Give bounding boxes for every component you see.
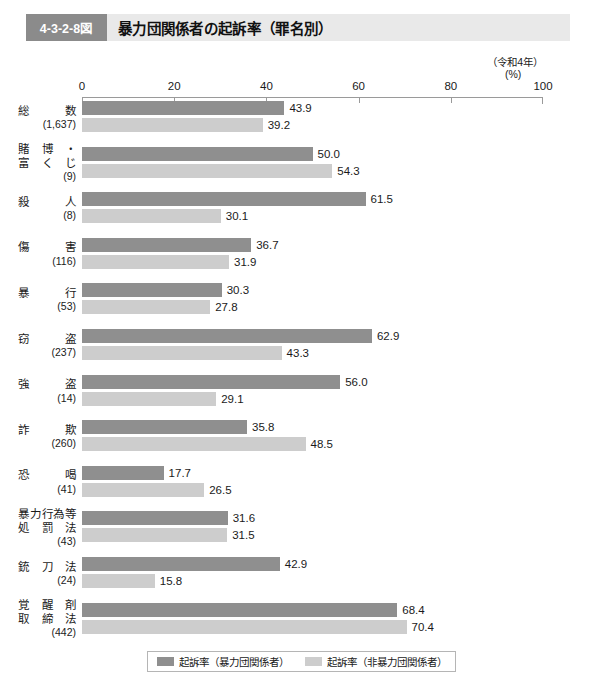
unit-annotation: (%) — [505, 68, 521, 80]
bar-value-label: 30.1 — [226, 209, 248, 223]
bar-value-label: 29.1 — [221, 392, 243, 406]
chart-bar — [82, 192, 366, 206]
chart-bar — [82, 300, 210, 314]
legend-label: 起訴率（非暴力団関係者） — [327, 654, 447, 669]
x-tick-label: 20 — [168, 80, 181, 92]
category-label: 覚 醒 剤取 締 法(442) — [18, 599, 76, 640]
category-count: (8) — [18, 209, 76, 223]
bar-value-label: 43.9 — [289, 101, 311, 115]
category-name: 強 盗 — [18, 378, 76, 392]
category-count: (116) — [18, 255, 76, 269]
x-tick-label: 40 — [260, 80, 273, 92]
category-name: 暴力行為等 — [18, 508, 76, 522]
category-name: 富 く じ — [18, 157, 76, 171]
category-name: 恐 喝 — [18, 469, 76, 483]
legend-item: 起訴率（暴力団関係者） — [157, 654, 289, 669]
bar-value-label: 35.8 — [252, 420, 274, 434]
x-tick-mark — [359, 97, 360, 103]
category-count: (43) — [18, 535, 76, 549]
chart-bar — [82, 483, 204, 497]
category-count: (24) — [18, 574, 76, 588]
page-title: 暴力団関係者の起訴率（罪名別） — [118, 14, 333, 41]
category-name: 総 数 — [18, 105, 76, 119]
category-label: 賭 博 ・富 く じ(9) — [18, 143, 76, 184]
x-tick-label: 60 — [352, 80, 365, 92]
chart-bar — [82, 283, 222, 297]
category-label: 総 数(1,637) — [18, 105, 76, 132]
bar-value-label: 70.4 — [412, 620, 434, 634]
chart-bar — [82, 346, 282, 360]
category-name: 覚 醒 剤 — [18, 599, 76, 613]
category-count: (260) — [18, 437, 76, 451]
chart-bar — [82, 375, 340, 389]
category-label: 窃 盗(237) — [18, 333, 76, 360]
chart-bar — [82, 392, 216, 406]
chart-bar — [82, 209, 221, 223]
bar-value-label: 27.8 — [215, 300, 237, 314]
category-label: 暴 行(53) — [18, 287, 76, 314]
category-name: 暴 行 — [18, 287, 76, 301]
x-tick-label: 100 — [533, 80, 552, 92]
category-count: (53) — [18, 300, 76, 314]
bar-value-label: 36.7 — [256, 238, 278, 252]
chart-bar — [82, 118, 263, 132]
category-count: (41) — [18, 483, 76, 497]
year-annotation: （令和4年） — [487, 54, 543, 69]
category-name: 賭 博 ・ — [18, 143, 76, 157]
x-tick-mark — [451, 97, 452, 103]
category-name: 殺 人 — [18, 196, 76, 210]
category-count: (237) — [18, 346, 76, 360]
legend-swatch — [305, 657, 322, 666]
legend-item: 起訴率（非暴力団関係者） — [305, 654, 447, 669]
bar-value-label: 31.5 — [232, 528, 254, 542]
category-count: (442) — [18, 626, 76, 640]
bar-value-label: 31.9 — [234, 255, 256, 269]
chart-bar — [82, 557, 280, 571]
chart-bar — [82, 574, 155, 588]
bar-value-label: 15.8 — [160, 574, 182, 588]
category-label: 銃 刀 法(24) — [18, 561, 76, 588]
chart-bar — [82, 437, 306, 451]
bar-value-label: 61.5 — [371, 192, 393, 206]
bar-value-label: 42.9 — [285, 557, 307, 571]
category-label: 殺 人(8) — [18, 196, 76, 223]
category-label: 詐 欺(260) — [18, 424, 76, 451]
category-count: (1,637) — [18, 118, 76, 132]
category-name: 処 罰 法 — [18, 522, 76, 536]
chart-bar — [82, 329, 372, 343]
chart-bar — [82, 101, 284, 115]
category-name: 銃 刀 法 — [18, 561, 76, 575]
bar-value-label: 50.0 — [318, 147, 340, 161]
chart-bar — [82, 620, 407, 634]
chart-legend: 起訴率（暴力団関係者）起訴率（非暴力団関係者） — [147, 651, 456, 672]
category-count: (14) — [18, 392, 76, 406]
chart-bar — [82, 528, 227, 542]
bar-value-label: 39.2 — [268, 118, 290, 132]
axis-right-cap — [542, 97, 543, 104]
category-name: 詐 欺 — [18, 424, 76, 438]
chart-bar — [82, 511, 228, 525]
category-name: 窃 盗 — [18, 333, 76, 347]
chart-bar — [82, 420, 247, 434]
category-label: 暴力行為等処 罰 法(43) — [18, 508, 76, 549]
bar-value-label: 54.3 — [337, 164, 359, 178]
chart-bar — [82, 255, 229, 269]
category-name: 取 締 法 — [18, 613, 76, 627]
category-label: 恐 喝(41) — [18, 469, 76, 496]
bar-value-label: 17.7 — [169, 466, 191, 480]
category-label: 強 盗(14) — [18, 378, 76, 405]
chart-bar — [82, 603, 397, 617]
x-tick-label: 80 — [444, 80, 457, 92]
chart-axis-line — [82, 97, 543, 98]
bar-value-label: 48.5 — [311, 437, 333, 451]
legend-label: 起訴率（暴力団関係者） — [179, 654, 289, 669]
bar-value-label: 43.3 — [287, 346, 309, 360]
category-label: 傷 害(116) — [18, 241, 76, 268]
bar-value-label: 31.6 — [233, 511, 255, 525]
chart-bar — [82, 466, 164, 480]
legend-swatch — [157, 657, 174, 666]
category-count: (9) — [18, 170, 76, 184]
bar-value-label: 68.4 — [402, 603, 424, 617]
bar-value-label: 56.0 — [345, 375, 367, 389]
chart-bar — [82, 164, 332, 178]
